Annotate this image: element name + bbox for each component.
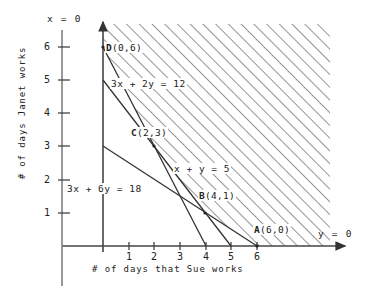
vertex-label-d: D(0,6)	[105, 42, 143, 53]
x-tick-2: 2	[151, 251, 157, 262]
vertex-coords-a: (6,0)	[260, 224, 290, 235]
x-axis-equation-label: x = 0	[47, 13, 82, 24]
y-tick-3: 3	[44, 140, 50, 151]
x-tick-5: 5	[228, 251, 234, 262]
y-tick-5: 5	[44, 74, 50, 85]
y-axis-title: # of days Janet works	[17, 33, 27, 193]
y-tick-4: 4	[44, 107, 50, 118]
x-tick-4: 4	[203, 251, 209, 262]
y-tick-1: 1	[44, 207, 50, 218]
equation-label-3x-6y-18: 3x + 6y = 18	[66, 183, 143, 194]
y-tick-6: 6	[44, 41, 50, 52]
y-tick-2: 2	[44, 174, 50, 185]
x-axis-title: # of days that Sue works	[92, 264, 244, 274]
plot-canvas	[0, 0, 380, 290]
y-axis-equation-label: y = 0	[318, 228, 353, 239]
x-tick-1: 1	[126, 251, 132, 262]
x-tick-6: 6	[254, 251, 260, 262]
equation-label-x-y-5: x + y = 5	[173, 163, 231, 174]
vertex-coords-c: (2,3)	[137, 127, 167, 138]
vertex-coords-b: (4,1)	[205, 190, 235, 201]
vertex-label-c: C(2,3)	[130, 127, 168, 138]
vertex-label-a: A(6,0)	[253, 224, 291, 235]
vertex-coords-d: (0,6)	[112, 42, 142, 53]
x-tick-3: 3	[177, 251, 183, 262]
equation-label-3x-2y-12: 3x + 2y = 12	[110, 78, 187, 89]
vertex-label-b: B(4,1)	[198, 190, 236, 201]
